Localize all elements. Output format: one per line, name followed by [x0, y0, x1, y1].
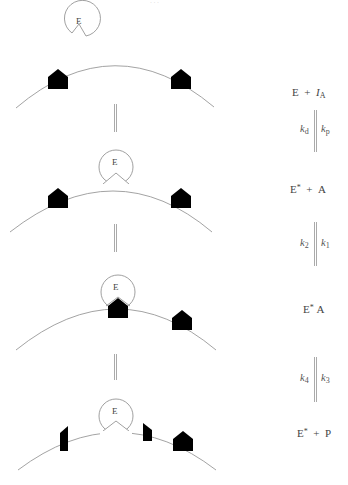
equation-state-1: E + IA [292, 86, 325, 100]
equilibrium-arrows [315, 110, 317, 402]
substrate-right-icon [171, 69, 191, 89]
rate-constant-k4: k4 [300, 372, 309, 385]
mechanism-diagram [0, 0, 348, 485]
panel-2 [10, 150, 212, 232]
substrate-left-icon [48, 69, 68, 89]
equation-state-3: E* A [303, 303, 324, 315]
enzyme-label: E [76, 16, 82, 26]
rate-constant-k1: k1 [321, 237, 330, 250]
substrate-right-icon [172, 310, 192, 330]
rate-constant-kd: kd [300, 123, 309, 136]
enzyme-label: E [112, 157, 118, 167]
substrate-left-icon [48, 188, 68, 208]
product-fragment-left-icon [60, 426, 68, 451]
enzyme-label: E [112, 406, 118, 416]
enzyme-free [64, 0, 100, 36]
equation-state-2: E* + A [290, 183, 326, 195]
rate-constant-k3: k3 [321, 372, 330, 385]
substrate-right-icon [171, 188, 191, 208]
product-fragment-right-icon [143, 423, 152, 441]
substrate-right-icon [173, 431, 193, 451]
equation-state-4: E* + P [297, 427, 331, 439]
enzyme-pacman-icon [64, 0, 100, 36]
rate-constant-k2: k2 [300, 237, 309, 250]
enzyme-bound-membrane [99, 150, 133, 188]
transition-arrows-left [115, 104, 117, 380]
panel-1 [16, 0, 214, 108]
enzyme-label: E [113, 282, 119, 292]
rate-constant-kp: kp [321, 123, 330, 136]
enzyme-after-cleavage [99, 399, 133, 435]
